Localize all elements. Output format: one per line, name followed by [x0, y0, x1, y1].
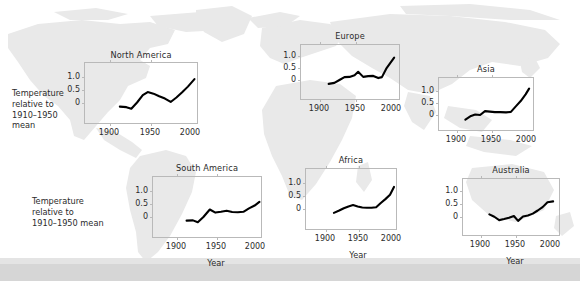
- ytick-europe-2: 0.5: [283, 63, 296, 72]
- xtick-europe-1: 1900: [309, 104, 329, 113]
- ytick-asia-1: 1.0: [421, 86, 434, 95]
- ylabel-line-4: mean: [12, 120, 74, 131]
- ytick-africa-1: 1.0: [288, 178, 301, 187]
- series-line-africa: [306, 169, 396, 229]
- xlabel-africa: Year: [349, 250, 366, 260]
- series-line-north-america: [85, 63, 197, 123]
- panel-australia: Australia 1.0 0.5 0 1900 1950 2000 Year: [462, 178, 560, 236]
- panel-north-america: North America 1.0 0.5 0 1900 1950 2000: [84, 62, 198, 124]
- panel-title-australia: Australia: [462, 165, 560, 175]
- ytick-north-america-1: 1.0: [67, 72, 80, 81]
- series-line-europe: [301, 45, 399, 99]
- xtick-south-america-2: 1950: [206, 242, 226, 251]
- plot-area-asia: [438, 77, 534, 131]
- ylabel-sa-line-1: Temperature: [32, 196, 128, 207]
- xtick-asia-1: 1900: [446, 135, 466, 144]
- series-line-south-america: [153, 177, 261, 237]
- panel-title-north-america: North America: [84, 50, 198, 60]
- xtick-north-america-1: 1900: [99, 128, 119, 137]
- xtick-australia-3: 2000: [540, 240, 560, 249]
- ytick-south-america-2: 0.5: [135, 199, 148, 208]
- ytick-europe-3: 0: [291, 75, 296, 84]
- xtick-south-america-1: 1900: [166, 242, 186, 251]
- ylabel-sa-line-2: relative to: [32, 207, 128, 218]
- xtick-africa-2: 1950: [348, 234, 368, 243]
- ytick-asia-2: 0.5: [421, 98, 434, 107]
- panel-south-america: South America 1.0 0.5 0 1900 1950 2000 Y…: [152, 176, 262, 238]
- xtick-africa-1: 1900: [315, 234, 335, 243]
- xtick-south-america-3: 2000: [245, 242, 265, 251]
- ytick-asia-3: 0: [429, 110, 434, 119]
- xtick-asia-3: 2000: [516, 135, 536, 144]
- series-line-australia: [463, 179, 559, 235]
- plot-area-africa: [305, 168, 397, 230]
- panel-title-europe: Europe: [300, 31, 400, 41]
- plot-area-europe: [300, 44, 400, 100]
- series-line-asia: [439, 78, 533, 130]
- ytick-north-america-3: 0: [75, 98, 80, 107]
- plot-area-south-america: [152, 176, 262, 238]
- ytick-australia-3: 0: [453, 212, 458, 221]
- xtick-europe-3: 2000: [381, 104, 401, 113]
- panel-asia: Asia 1.0 0.5 0 1900 1950 2000: [438, 77, 534, 131]
- ylabel-line-1: Temperature: [12, 88, 74, 99]
- ytick-australia-2: 0.5: [445, 199, 458, 208]
- panel-europe: Europe 1.0 0.5 0 1900 1950 2000: [300, 44, 400, 100]
- xtick-europe-2: 1950: [345, 104, 365, 113]
- ylabel-north-america: Temperature relative to 1910–1950 mean: [12, 88, 74, 131]
- xtick-north-america-3: 2000: [180, 128, 200, 137]
- xtick-australia-2: 1950: [505, 240, 525, 249]
- ytick-europe-1: 1.0: [283, 51, 296, 60]
- ylabel-line-2: relative to: [12, 99, 74, 110]
- xlabel-south-america: Year: [207, 258, 224, 268]
- ylabel-line-3: 1910–1950: [12, 110, 74, 121]
- xtick-north-america-2: 1950: [140, 128, 160, 137]
- xtick-africa-3: 2000: [381, 234, 401, 243]
- climate-figure: North America 1.0 0.5 0 1900 1950 2000 T…: [0, 0, 580, 281]
- plot-area-australia: [462, 178, 560, 236]
- ylabel-sa-line-3: 1910–1950 mean: [32, 218, 128, 229]
- ytick-south-america-1: 1.0: [135, 186, 148, 195]
- ytick-africa-3: 0: [296, 204, 301, 213]
- panel-africa: Africa 1.0 0.5 0 1900 1950 2000 Year: [305, 168, 397, 230]
- panel-title-south-america: South America: [152, 163, 262, 173]
- ytick-south-america-3: 0: [143, 212, 148, 221]
- ytick-australia-1: 1.0: [445, 186, 458, 195]
- panel-title-africa: Africa: [305, 155, 397, 165]
- panel-title-asia: Asia: [438, 64, 534, 74]
- plot-area-north-america: [84, 62, 198, 124]
- xlabel-australia: Year: [506, 256, 523, 266]
- ylabel-south-america: Temperature relative to 1910–1950 mean: [32, 196, 128, 228]
- xtick-asia-2: 1950: [481, 135, 501, 144]
- ytick-africa-2: 0.5: [288, 191, 301, 200]
- xtick-australia-1: 1900: [470, 240, 490, 249]
